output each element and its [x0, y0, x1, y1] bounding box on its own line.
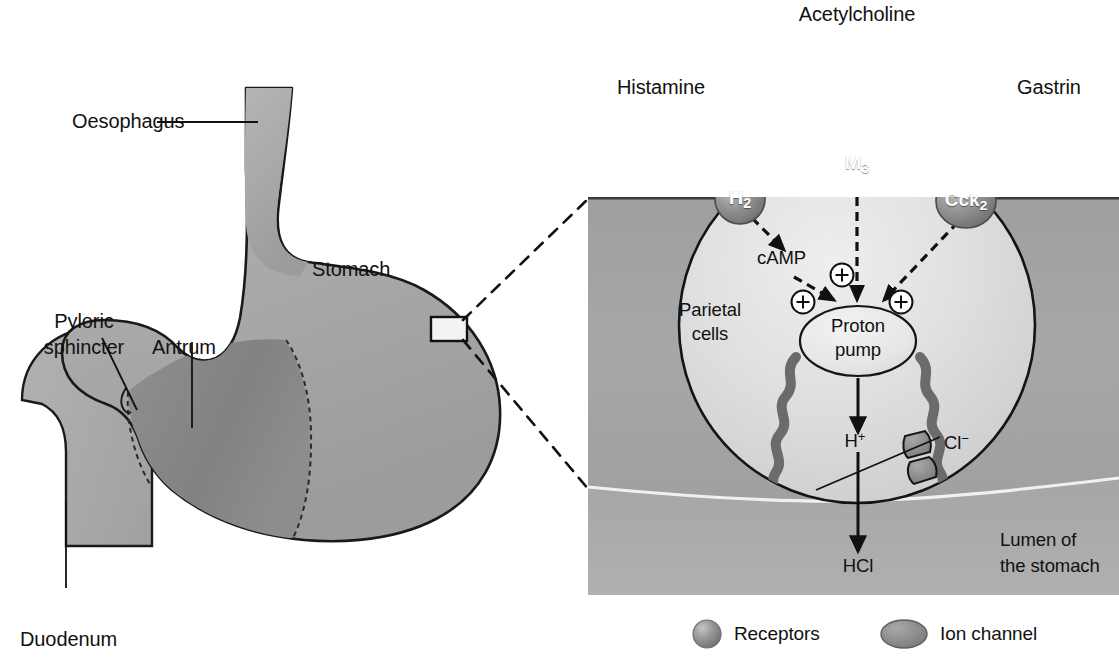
plus-acetylcholine-icon [866, 106, 889, 129]
label-pyloric-sphincter-line1: Pyloric [20, 310, 148, 332]
legend-receptor-sphere [693, 620, 721, 648]
legend-label-receptors: Receptors [734, 623, 820, 644]
receptor-m3-subscript: 3 [861, 160, 869, 176]
hplus-charge: + [858, 429, 866, 444]
label-antrum: Antrum [152, 336, 216, 358]
receptor-h2-name: H [729, 186, 743, 208]
receptor-m3-name: M [845, 151, 862, 173]
plus-histamine-icon [715, 122, 738, 145]
label-hydrogen-ion: H+ [820, 430, 890, 451]
label-lumen-line1: Lumen of [1000, 530, 1076, 551]
label-chloride-ion: Cl− [944, 432, 969, 453]
receptor-label-m3: M3 [832, 151, 882, 176]
cl-charge: − [961, 431, 969, 446]
label-proton-pump-line1: Proton [798, 316, 918, 337]
legend-label-ion-channel: Ion channel [940, 623, 1037, 644]
label-pyloric-sphincter-line2: sphincter [8, 336, 160, 358]
label-acetylcholine: Acetylcholine [771, 3, 943, 25]
label-histamine: Histamine [601, 76, 721, 98]
figure-root: Oesophagus Stomach Pyloric sphincter Ant… [0, 0, 1119, 664]
arrow-gastrin [985, 133, 1046, 183]
arrow-histamine [669, 133, 728, 183]
plus-cck2-pump-icon [890, 291, 913, 314]
receptor-label-cck2: Cck2 [931, 189, 1001, 213]
plus-gastrin-icon [969, 122, 992, 145]
label-camp: cAMP [757, 248, 806, 269]
ligand-histamine [648, 111, 674, 137]
magnify-connector-top [463, 198, 589, 320]
label-parietal-cells-line1: Parietal [650, 300, 770, 321]
oesophagus-shape [245, 88, 308, 276]
magnification-box [431, 317, 467, 341]
ligand-acetylcholine [844, 34, 870, 60]
ligand-gastrin [1040, 111, 1066, 137]
legend-ion-channel-ellipse [881, 620, 927, 648]
label-lumen-line2: the stomach [1000, 556, 1100, 577]
label-proton-pump-line2: pump [798, 340, 918, 361]
receptor-cck2-subscript: 2 [980, 198, 988, 213]
label-duodenum: Duodenum [20, 628, 117, 650]
label-gastrin: Gastrin [1001, 76, 1097, 98]
receptor-cck2-name: Cck [945, 189, 980, 210]
label-parietal-cells-line2: cells [650, 324, 770, 345]
diagram-graphics [0, 0, 1119, 664]
label-stomach: Stomach [312, 258, 390, 280]
hplus-symbol: H [845, 430, 858, 451]
plus-camp-pump-icon [792, 291, 815, 314]
label-oesophagus: Oesophagus [72, 110, 184, 132]
receptor-h2-subscript: 2 [743, 195, 751, 211]
label-hcl: HCl [820, 556, 896, 577]
plus-m3-pump-icon [831, 264, 854, 287]
receptor-label-h2: H2 [715, 186, 765, 211]
cl-symbol: Cl [944, 432, 961, 453]
